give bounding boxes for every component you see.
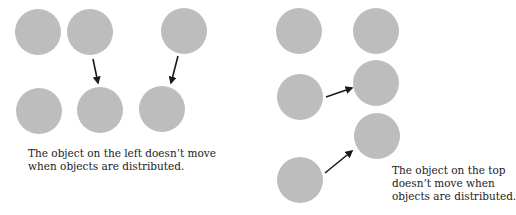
arrow-icon [325, 151, 352, 173]
caption-left: The object on the left doesn’t move when… [28, 147, 216, 173]
panel-distribute-vertical [276, 8, 400, 203]
circle-object [77, 87, 123, 133]
circle-object [161, 8, 207, 54]
circle-object [277, 157, 323, 203]
circle-object [16, 88, 62, 134]
caption-right-line-1: The object on the top [392, 164, 516, 177]
circle-object [139, 86, 185, 132]
circle-object [15, 9, 61, 55]
circle-object [276, 8, 322, 54]
circle-object [354, 113, 400, 159]
circle-object [67, 9, 113, 55]
caption-left-line-2: when objects are distributed. [28, 160, 216, 173]
panel-distribute-horizontal [15, 8, 207, 134]
caption-left-line-1: The object on the left doesn’t move [28, 147, 216, 160]
arrow-icon [326, 88, 352, 97]
arrow-icon [171, 56, 178, 83]
caption-right-line-2: doesn’t move when [392, 177, 516, 190]
circle-object [353, 60, 399, 106]
caption-right: The object on the top doesn’t move when … [392, 164, 516, 203]
arrow-icon [93, 59, 98, 83]
caption-right-line-3: objects are distributed. [392, 190, 516, 203]
circle-object [277, 74, 323, 120]
circle-object [353, 8, 399, 54]
